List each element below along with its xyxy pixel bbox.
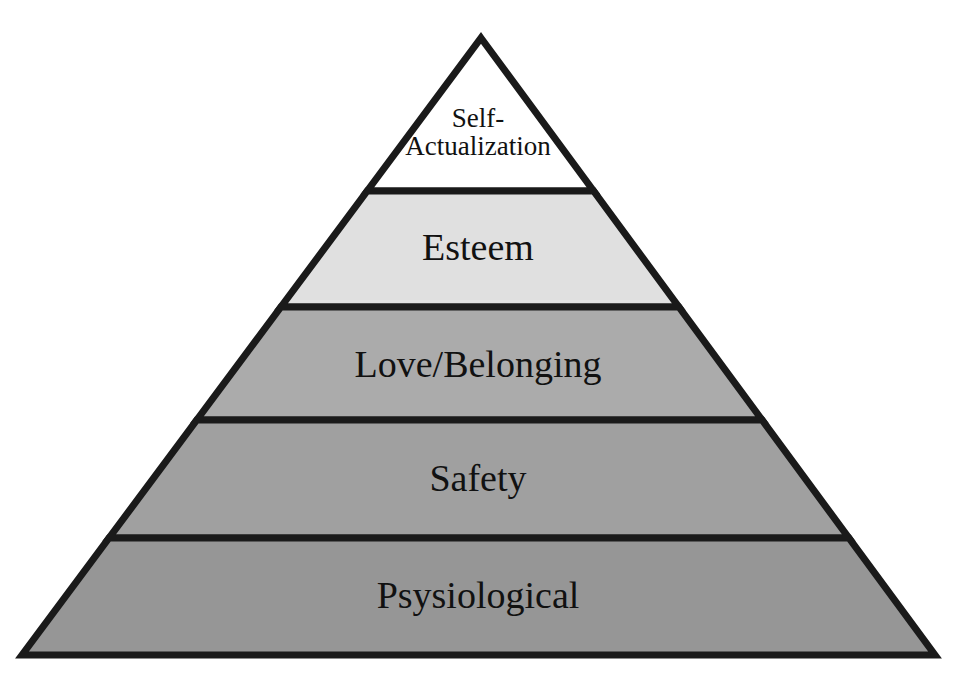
pyramid-diagram: Self- Actualization Esteem Love/Belongin… [0, 0, 956, 684]
pyramid-graphic [0, 0, 956, 684]
pyramid-tier-shapes [22, 38, 935, 655]
tier-shape-self-actualization [367, 38, 593, 191]
tier-shape-psysiological [22, 538, 935, 655]
tier-shape-love-belonging [197, 307, 762, 420]
tier-shape-safety [109, 420, 849, 538]
tier-shape-esteem [281, 191, 679, 307]
